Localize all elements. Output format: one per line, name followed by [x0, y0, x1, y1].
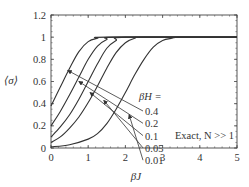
y-tick-label: 0 [41, 143, 46, 154]
y-tick-label: 0.6 [33, 76, 46, 87]
y-tick-label: 0.8 [33, 54, 46, 65]
x-tick-label: 2 [123, 152, 128, 163]
y-tick-label: 1 [41, 32, 46, 43]
legend-label: 0.2 [145, 118, 158, 129]
annotation-text: Exact, N >> 1 [175, 130, 234, 141]
x-tick-label: 4 [197, 152, 203, 163]
x-tick-label: 5 [234, 152, 239, 163]
y-tick-label: 1.2 [33, 10, 46, 21]
x-tick-label: 0 [48, 152, 53, 163]
legend-label: 0.1 [145, 131, 158, 142]
series-line-0.2 [51, 37, 237, 126]
chart: 01234500.20.40.60.811.2 0.40.20.10.050.0… [0, 0, 249, 187]
legend-label: 0.01 [145, 155, 163, 166]
x-axis-label: βJ [130, 170, 142, 182]
y-tick-label: 0.2 [33, 120, 46, 131]
series-line-0.05 [51, 37, 237, 142]
legend-label: 0.4 [145, 106, 159, 117]
x-tick-label: 1 [86, 152, 91, 163]
y-tick-label: 0.4 [33, 98, 47, 109]
legend: 0.40.20.10.050.01 [68, 70, 164, 166]
legend-arrow [90, 93, 143, 136]
y-axis-label: ⟨σ⟩ [4, 74, 18, 86]
legend-label: 0.05 [145, 143, 163, 154]
legend-header: βH = [138, 91, 162, 102]
